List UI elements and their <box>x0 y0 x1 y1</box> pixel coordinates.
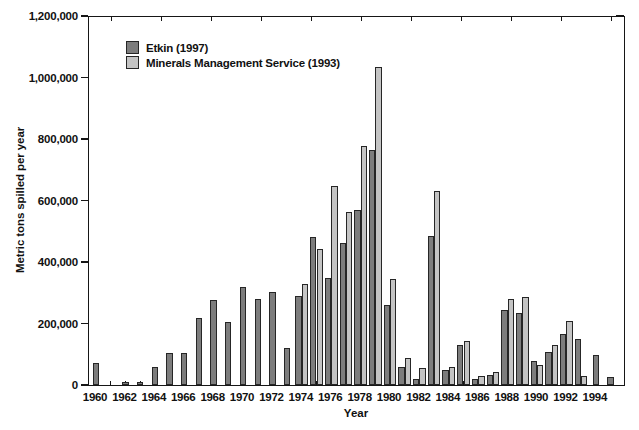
bar-mms-1981 <box>405 358 411 385</box>
bar-etkin-1965 <box>166 353 172 385</box>
spill-bar-chart-figure: Metric tons spilled per year Year 0200,0… <box>0 0 639 430</box>
bar-etkin-1969 <box>225 322 231 385</box>
x-tick-label: 1984 <box>436 391 460 403</box>
x-tick-label: 1994 <box>583 391 607 403</box>
bar-mms-1980 <box>390 279 396 385</box>
legend-label: Etkin (1997) <box>146 42 208 54</box>
bar-mms-1978 <box>361 146 367 385</box>
bar-etkin-1967 <box>196 318 202 385</box>
x-tick-label: 1992 <box>553 391 577 403</box>
bar-etkin-1966 <box>181 353 187 385</box>
y-tick-mark-left <box>81 77 88 78</box>
bar-mms-1991 <box>552 345 558 385</box>
bar-mms-1984 <box>449 367 455 385</box>
y-tick-mark-left <box>81 261 88 262</box>
top-border-tick <box>511 17 512 21</box>
bar-mms-1982 <box>419 368 425 385</box>
y-tick-mark-left <box>81 15 88 16</box>
bar-mms-1988 <box>508 299 514 385</box>
bar-mms-1986 <box>478 376 484 385</box>
bar-etkin-1973 <box>284 348 290 385</box>
top-border-tick <box>611 17 612 21</box>
legend-swatch-icon <box>126 41 139 54</box>
x-tick-label: 1968 <box>200 391 224 403</box>
x-tick-label: 1986 <box>465 391 489 403</box>
x-tick-label: 1972 <box>259 391 283 403</box>
legend-item: Etkin (1997) <box>126 41 340 54</box>
x-tick-label: 1976 <box>318 391 342 403</box>
bar-mms-1993 <box>581 376 587 385</box>
bar-mms-1992 <box>566 321 572 385</box>
x-tick-label: 1988 <box>494 391 518 403</box>
bar-etkin-1963 <box>137 382 143 385</box>
x-tick-label: 1978 <box>347 391 371 403</box>
x-tick-label: 1962 <box>112 391 136 403</box>
x-tick-label: 1974 <box>289 391 313 403</box>
bar-mms-1985 <box>464 341 470 385</box>
x-tick-label: 1960 <box>83 391 107 403</box>
bar-etkin-1972 <box>269 292 275 385</box>
top-border-tick <box>111 17 112 21</box>
top-border-tick <box>561 17 562 21</box>
legend: Etkin (1997)Minerals Management Service … <box>126 41 340 71</box>
bar-etkin-1970 <box>240 287 246 385</box>
y-tick-label: 800,000 <box>8 132 78 146</box>
x-tick-label: 1966 <box>171 391 195 403</box>
bar-mms-1975 <box>317 249 323 385</box>
bar-mms-1976 <box>331 186 337 385</box>
y-tick-label: 0 <box>8 378 78 392</box>
x-tick-label: 1970 <box>230 391 254 403</box>
top-border-tick <box>411 17 412 21</box>
bar-etkin-1960 <box>93 363 99 385</box>
top-border-tick <box>361 17 362 21</box>
bar-mms-1990 <box>537 365 543 385</box>
y-tick-label: 1,200,000 <box>8 9 78 23</box>
legend-label: Minerals Management Service (1993) <box>146 57 340 69</box>
x-tick-label: 1964 <box>142 391 166 403</box>
bar-mms-1989 <box>522 297 528 385</box>
y-tick-label: 400,000 <box>8 255 78 269</box>
y-tick-label: 200,000 <box>8 317 78 331</box>
top-border-tick <box>461 17 462 21</box>
y-tick-label: 1,000,000 <box>8 71 78 85</box>
x-axis-title: Year <box>344 407 368 419</box>
bar-mms-1974 <box>302 284 308 385</box>
bar-etkin-1971 <box>255 299 261 385</box>
y-tick-mark-left <box>81 200 88 201</box>
bar-etkin-1962 <box>122 382 128 385</box>
bar-etkin-1968 <box>210 300 216 385</box>
bar-mms-1983 <box>434 191 440 385</box>
top-border-tick <box>261 17 262 21</box>
bar-etkin-1995 <box>607 377 613 385</box>
bar-mms-1979 <box>375 67 381 385</box>
bar-etkin-1964 <box>152 367 158 385</box>
y-tick-mark-left <box>81 138 88 139</box>
bar-etkin-1994 <box>593 355 599 385</box>
y-tick-label: 600,000 <box>8 194 78 208</box>
legend-swatch-icon <box>126 56 139 69</box>
y-tick-mark-left <box>81 323 88 324</box>
bar-mms-1987 <box>493 372 499 385</box>
x-minor-tick <box>110 381 111 385</box>
legend-item: Minerals Management Service (1993) <box>126 56 340 69</box>
x-tick-label: 1980 <box>377 391 401 403</box>
x-tick-label: 1990 <box>524 391 548 403</box>
bar-mms-1977 <box>346 212 352 385</box>
y-tick-mark-left <box>81 384 88 385</box>
top-border-tick <box>211 17 212 21</box>
x-tick-label: 1982 <box>406 391 430 403</box>
plot-area: Etkin (1997)Minerals Management Service … <box>88 16 625 386</box>
top-border-tick <box>311 17 312 21</box>
top-border-tick <box>161 17 162 21</box>
